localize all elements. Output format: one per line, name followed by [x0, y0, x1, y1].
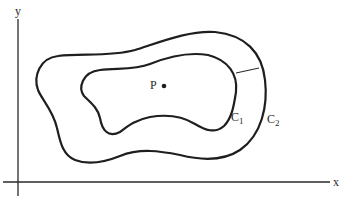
x-axis-label: x	[333, 175, 339, 189]
inner-curve-c1	[81, 54, 236, 134]
y-axis-label: y	[15, 4, 21, 18]
connecting-segment	[236, 68, 259, 73]
diagram-canvas: y x P C1 C2	[0, 0, 346, 203]
point-p-dot	[162, 84, 167, 89]
c1-label: C1	[231, 110, 244, 126]
outer-curve-c2	[36, 32, 265, 163]
c2-label: C2	[267, 112, 280, 128]
region-between-curves-diagram: y x P C1 C2	[0, 0, 346, 203]
point-p-label: P	[150, 78, 157, 92]
